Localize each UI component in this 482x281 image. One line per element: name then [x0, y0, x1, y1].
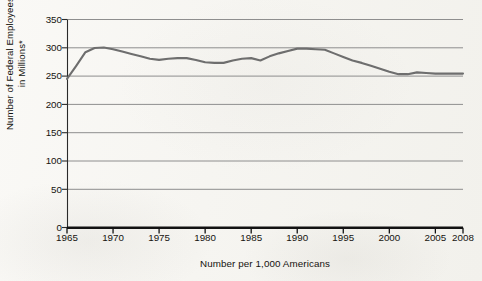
x-axis-tick-labels: 1965 1970 1975 1980 1985 1990 1995 2000 … [0, 0, 482, 281]
x-tick-label-1995: 1995 [332, 233, 354, 243]
x-tick-label-1965: 1965 [56, 233, 78, 243]
x-tick-label-2000: 2000 [378, 233, 400, 243]
x-tick-label-2005: 2005 [424, 233, 446, 243]
x-axis-title: Number per 1,000 Americans [67, 258, 463, 269]
x-tick-label-1975: 1975 [148, 233, 170, 243]
x-tick-label-1990: 1990 [286, 233, 308, 243]
x-tick-label-1980: 1980 [194, 233, 216, 243]
x-tick-label-1985: 1985 [240, 233, 262, 243]
x-tick-label-1970: 1970 [102, 233, 124, 243]
line-chart: Number of Federal Employees in Millions*… [0, 0, 482, 281]
x-tick-label-2008: 2008 [452, 233, 474, 243]
